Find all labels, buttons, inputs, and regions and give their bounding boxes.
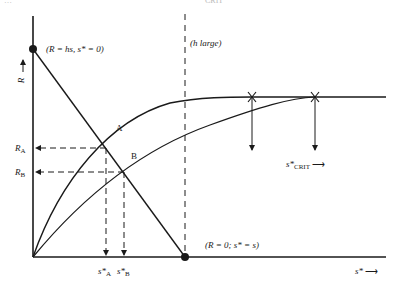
s-crit-label: s*CRIT ⟶ <box>286 160 325 171</box>
r-b-label: RB <box>15 168 25 179</box>
bottom-point-dot <box>181 253 189 261</box>
top-point-label: (R = hs, s* = 0) <box>46 45 104 54</box>
top-point-dot <box>29 45 37 53</box>
x-axis-label: s* ⟶ <box>355 267 378 276</box>
x-axis-arrow-icon: ⟶ <box>365 266 378 276</box>
bottom-point-label: (R = 0; s* = s) <box>205 241 259 250</box>
curve-b <box>33 97 315 257</box>
header-fragment-right: CRIT <box>205 0 223 5</box>
header-fragment-left: … <box>4 0 12 5</box>
h-large-label: (h large) <box>190 39 221 48</box>
y-axis-label: R <box>17 78 26 84</box>
operating-line <box>33 49 185 257</box>
s-a-label: s*A <box>98 267 111 278</box>
diagram: … CRIT R (R = hs, s* = 0) (h large) A B … <box>0 0 399 287</box>
point-a-label: A <box>116 124 123 133</box>
s-b-label: s*B <box>117 267 130 278</box>
point-b-label: B <box>131 152 137 161</box>
s-crit-arrow-icon: ⟶ <box>312 159 325 169</box>
r-a-label: RA <box>15 144 26 155</box>
